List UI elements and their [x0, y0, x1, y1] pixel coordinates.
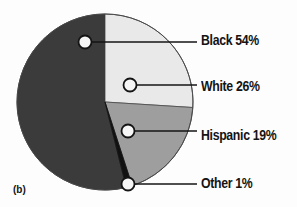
pie-chart-figure: Black 54% White 26% Hispanic 19% Other 1… — [0, 0, 297, 207]
callout-marker-hispanic[interactable] — [122, 125, 135, 138]
callout-marker-black[interactable] — [79, 36, 92, 49]
pie-slice-white[interactable] — [105, 14, 193, 108]
pie-label-black: Black 54% — [201, 32, 259, 47]
callout-marker-white[interactable] — [124, 79, 137, 92]
pie-label-other: Other 1% — [201, 175, 252, 190]
pie-label-white: White 26% — [201, 78, 260, 93]
callout-marker-other[interactable] — [122, 178, 135, 191]
figure-caption: (b) — [13, 185, 26, 195]
pie-label-hispanic: Hispanic 19% — [201, 127, 276, 142]
